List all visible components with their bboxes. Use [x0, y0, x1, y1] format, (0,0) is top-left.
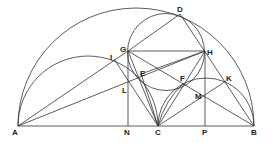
semicircle-CB: [158, 78, 254, 126]
semicircle-AB: [18, 8, 254, 126]
geometry-diagram: A B C N P D G H E F I L M K: [0, 0, 273, 143]
label-F: F: [180, 74, 185, 83]
label-C: C: [155, 128, 161, 137]
label-G: G: [120, 45, 126, 54]
label-D: D: [177, 5, 183, 14]
label-L: L: [122, 86, 127, 95]
line-DB: [180, 14, 254, 126]
label-M: M: [195, 92, 202, 101]
label-N: N: [124, 128, 130, 137]
label-E: E: [140, 69, 146, 78]
diagram-canvas: A B C N P D G H E F I L M K: [0, 0, 273, 143]
line-IC: [114, 59, 158, 126]
arc-EC: [141, 74, 158, 126]
label-A: A: [12, 128, 18, 137]
label-I: I: [110, 53, 112, 62]
label-H: H: [207, 48, 213, 57]
semicircle-AC: [18, 56, 158, 126]
line-EH: [141, 51, 205, 74]
line-HC: [158, 51, 205, 126]
label-B: B: [251, 128, 257, 137]
line-GD: [128, 14, 180, 51]
label-K: K: [226, 74, 232, 83]
label-P: P: [202, 128, 208, 137]
